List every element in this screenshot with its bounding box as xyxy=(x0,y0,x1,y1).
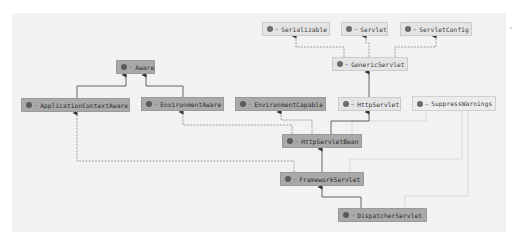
interface-icon xyxy=(121,64,127,70)
interface-icon xyxy=(405,26,411,32)
node-servletconfig[interactable]: ⊸ ServletConfig xyxy=(400,22,472,36)
node-suppresswarnings[interactable]: ⊸ SuppressWarnings xyxy=(412,96,496,111)
edge-applicationcontextaware-aware xyxy=(77,75,126,98)
node-genericservlet[interactable]: ⊸ GenericServlet xyxy=(332,57,408,71)
node-label: Serializable xyxy=(281,26,327,33)
edge-environmentaware-aware xyxy=(146,75,183,97)
node-label: HttpServlet xyxy=(357,101,399,108)
visibility-icon: ⊸ xyxy=(425,101,428,107)
node-frameworkservlet[interactable]: ⊸ FrameworkServlet xyxy=(280,172,364,186)
node-label: HttpServletBean xyxy=(301,138,358,145)
node-serializable[interactable]: ⊸ Serializable xyxy=(262,22,330,36)
node-label: Servlet xyxy=(360,26,387,33)
visibility-icon: ⊸ xyxy=(295,138,298,144)
visibility-icon: ⊸ xyxy=(351,101,354,107)
node-label: ServletConfig xyxy=(419,26,469,33)
abstract-class-icon xyxy=(337,61,343,67)
annotation-edges xyxy=(350,111,468,208)
visibility-icon: ⊸ xyxy=(345,61,348,67)
node-servlet[interactable]: ⊸ Servlet xyxy=(341,22,388,36)
annotation-icon xyxy=(417,101,423,107)
edge-frameworkservlet-applicationcontextaware xyxy=(77,113,294,172)
edge-dispatcherservlet-frameworkservlet xyxy=(322,187,361,208)
visibility-icon: ⊸ xyxy=(354,26,357,32)
visibility-icon: ⊸ xyxy=(413,26,416,32)
visibility-icon: ⊸ xyxy=(129,64,132,70)
node-label: EnvironmentCapable xyxy=(254,101,323,108)
node-aware[interactable]: ⊸ Aware xyxy=(116,60,155,74)
edge-genericservlet-servletconfig xyxy=(395,36,436,57)
visibility-icon: ⊸ xyxy=(34,102,37,108)
edge-httpservletbean-environmentaware xyxy=(183,112,292,134)
node-label: ApplicationContextAware xyxy=(40,102,128,109)
visibility-icon: ⊸ xyxy=(154,101,157,107)
edge-genericservlet-serializable xyxy=(296,36,344,57)
interface-icon xyxy=(146,101,152,107)
interface-icon xyxy=(240,101,246,107)
node-label: GenericServlet xyxy=(351,61,405,68)
interface-icon xyxy=(267,26,273,32)
edge-genericservlet-servlet xyxy=(366,36,369,57)
node-label: DispatcherServlet xyxy=(357,212,422,219)
visibility-icon: ⊸ xyxy=(351,212,354,218)
node-environmentcapable[interactable]: ⊸ EnvironmentCapable xyxy=(235,97,326,111)
abstract-class-icon xyxy=(285,176,291,182)
interface-icon xyxy=(26,102,32,108)
node-label: FrameworkServlet xyxy=(299,176,360,183)
visibility-icon: ⊸ xyxy=(248,101,251,107)
node-environmentaware[interactable]: ⊸ EnvironmentAware xyxy=(141,97,224,111)
visibility-icon: ⊸ xyxy=(293,176,296,182)
class-icon xyxy=(343,212,349,218)
node-dispatcherservlet[interactable]: ⊸ DispatcherServlet xyxy=(338,208,427,222)
abstract-class-icon xyxy=(287,138,293,144)
node-httpservletbean[interactable]: ⊸ HttpServletBean xyxy=(282,134,362,148)
node-httpservlet[interactable]: ⊸ HttpServlet xyxy=(338,97,401,111)
node-applicationcontextaware[interactable]: ⊸ ApplicationContextAware xyxy=(21,98,130,112)
diagram-edges xyxy=(0,0,517,242)
node-label: Aware xyxy=(135,64,154,71)
abstract-class-icon xyxy=(343,101,349,107)
node-label: SuppressWarnings xyxy=(431,100,492,107)
interface-icon xyxy=(346,26,352,32)
edge-httpservletbean-environmentcapable xyxy=(281,112,312,134)
edge-httpservletbean-httpservlet xyxy=(331,112,369,134)
node-label: EnvironmentAware xyxy=(160,101,221,108)
visibility-icon: ⊸ xyxy=(275,26,278,32)
